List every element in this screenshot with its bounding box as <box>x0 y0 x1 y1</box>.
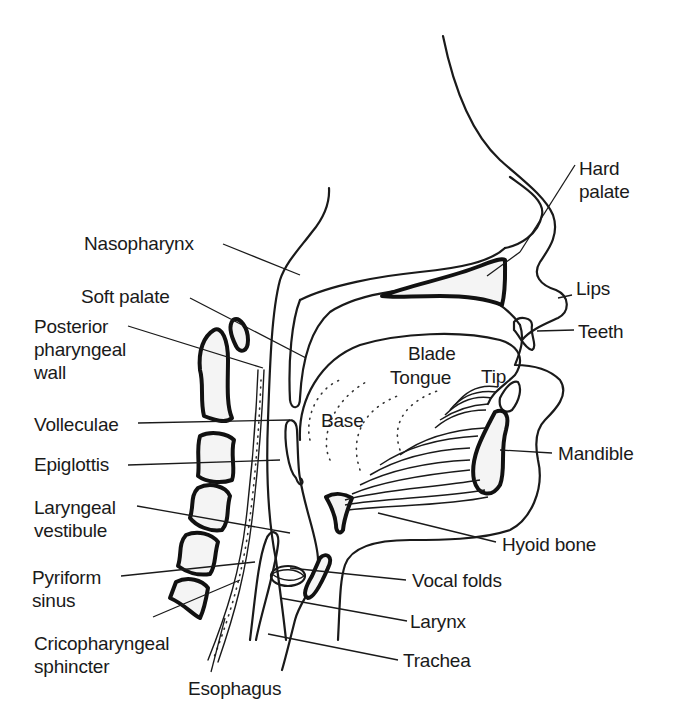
label-trachea: Trachea <box>403 649 471 672</box>
leader-mandible <box>500 450 552 453</box>
label-tip: Tip <box>481 365 506 388</box>
label-posterior-pharyngeal-wall: Posterior pharyngeal wall <box>34 315 126 384</box>
label-volleculae: Volleculae <box>34 413 119 436</box>
label-soft-palate: Soft palate <box>81 285 170 308</box>
label-nasopharynx: Nasopharynx <box>84 232 194 255</box>
leader-esophagus <box>211 618 225 672</box>
label-laryngeal-vestibule: Laryngeal vestibule <box>34 496 116 542</box>
leader-nasopharynx <box>223 244 300 275</box>
vertebra-c3 <box>198 433 234 482</box>
label-blade: Blade <box>408 342 456 365</box>
palate-outline <box>289 288 520 407</box>
vertebra-c4 <box>190 485 230 530</box>
vocal-folds-inner <box>272 570 304 581</box>
label-teeth: Teeth <box>578 320 623 343</box>
vertebra-c2 <box>200 329 232 421</box>
upper-tooth <box>514 318 534 350</box>
anatomy-diagram: Hard palate Nasopharynx Soft palate Lips… <box>0 0 682 727</box>
label-cricopharyngeal-sphincter: Cricopharyngeal sphincter <box>34 632 169 678</box>
thyroid-cartilage <box>305 555 330 598</box>
label-mandible: Mandible <box>558 442 634 465</box>
label-pyriform-sinus: Pyriform sinus <box>32 566 101 612</box>
mandible-bone <box>473 411 507 494</box>
label-larynx: Larynx <box>410 610 466 633</box>
label-lips: Lips <box>576 277 610 300</box>
leader-hyoid-bone <box>378 513 496 542</box>
leader-vocal-folds <box>290 568 406 580</box>
leader-teeth <box>537 330 574 331</box>
label-hyoid-bone: Hyoid bone <box>502 533 596 556</box>
label-tongue: Tongue <box>390 366 451 389</box>
leader-hard-palate <box>520 165 575 252</box>
nasal-inner-outline <box>505 177 542 248</box>
label-base: Base <box>321 409 364 432</box>
label-esophagus: Esophagus <box>188 677 281 700</box>
label-epiglottis: Epiglottis <box>34 453 109 476</box>
vertebra-c6 <box>170 579 208 618</box>
hard-palate-bone <box>382 259 505 305</box>
label-vocal-folds: Vocal folds <box>412 569 502 592</box>
tongue-fibers <box>345 386 498 510</box>
label-hard-palate: Hard palate <box>579 157 630 203</box>
